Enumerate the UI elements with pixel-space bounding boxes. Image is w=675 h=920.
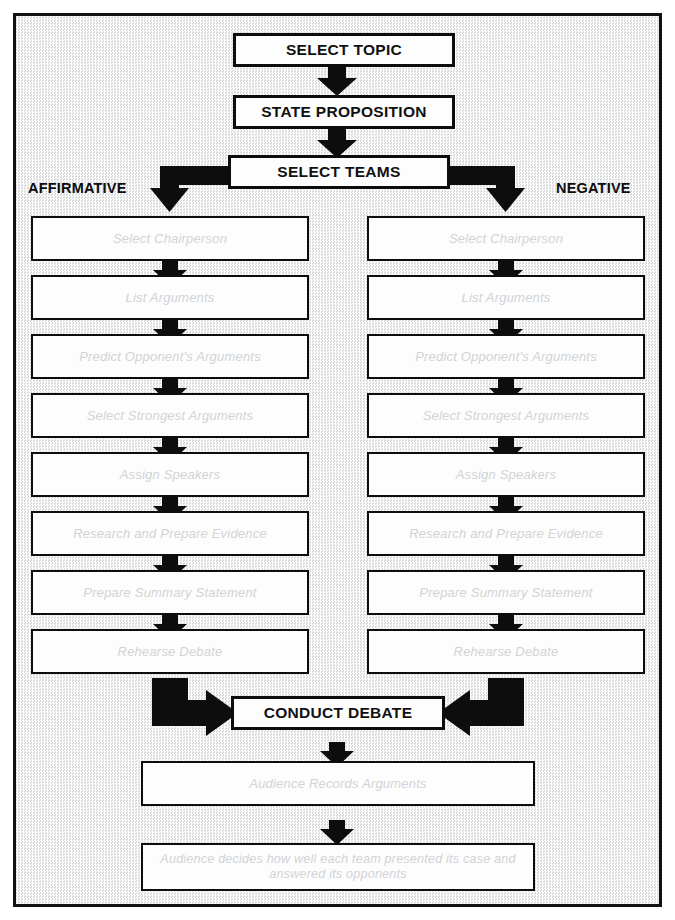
node-audience-decides[interactable]: Audience decides how well each team pres… (141, 843, 535, 891)
step-right-research-and-prepare-evidence[interactable]: Research and Prepare Evidence (367, 511, 645, 556)
step-left-select-strongest-arguments[interactable]: Select Strongest Arguments (31, 393, 309, 438)
step-right-predict-opponents-arguments[interactable]: Predict Opponent's Arguments (367, 334, 645, 379)
audience-decides-line2: answered its opponents (269, 867, 406, 881)
node-label: CONDUCT DEBATE (264, 704, 413, 723)
step-left-list-arguments[interactable]: List Arguments (31, 275, 309, 320)
node-select-topic[interactable]: SELECT TOPIC (233, 33, 455, 67)
affirmative-text: AFFIRMATIVE (28, 180, 127, 196)
step-label: Prepare Summary Statement (419, 585, 592, 601)
step-left-prepare-summary-statement[interactable]: Prepare Summary Statement (31, 570, 309, 615)
arrow-right-elbow-to-conduct (438, 678, 524, 736)
branch-label-negative: NEGATIVE (556, 180, 631, 196)
arrow-records-to-decides (320, 820, 354, 845)
flowchart-page: SELECT TOPIC STATE PROPOSITION SELECT TE… (0, 0, 675, 920)
step-label: Assign Speakers (120, 467, 221, 483)
step-right-select-strongest-arguments[interactable]: Select Strongest Arguments (367, 393, 645, 438)
arrow-topic-to-proposition (317, 66, 357, 96)
audience-decides-text: Audience decides how well each team pres… (157, 852, 519, 883)
step-left-research-and-prepare-evidence[interactable]: Research and Prepare Evidence (31, 511, 309, 556)
step-label: Predict Opponent's Arguments (415, 349, 597, 365)
step-label: Select Chairperson (113, 231, 227, 247)
step-label: List Arguments (125, 290, 214, 306)
step-label: List Arguments (461, 290, 550, 306)
branch-label-affirmative: AFFIRMATIVE (28, 180, 127, 196)
arrow-proposition-to-teams (317, 128, 357, 158)
step-label: Rehearse Debate (454, 644, 559, 660)
step-left-assign-speakers[interactable]: Assign Speakers (31, 452, 309, 497)
node-audience-records-arguments[interactable]: Audience Records Arguments (141, 761, 535, 806)
step-label: Research and Prepare Evidence (73, 526, 267, 542)
step-right-list-arguments[interactable]: List Arguments (367, 275, 645, 320)
audience-decides-line1: Audience decides how well each team pres… (160, 852, 515, 866)
step-label: Prepare Summary Statement (83, 585, 256, 601)
step-label: Predict Opponent's Arguments (79, 349, 261, 365)
step-right-assign-speakers[interactable]: Assign Speakers (367, 452, 645, 497)
step-right-rehearse-debate[interactable]: Rehearse Debate (367, 629, 645, 674)
step-label: Audience Records Arguments (249, 776, 426, 792)
node-label: SELECT TEAMS (277, 163, 400, 182)
step-left-select-chairperson[interactable]: Select Chairperson (31, 216, 309, 261)
node-label: STATE PROPOSITION (261, 103, 427, 122)
step-label: Select Strongest Arguments (423, 408, 590, 424)
node-select-teams[interactable]: SELECT TEAMS (228, 155, 450, 189)
step-left-predict-opponents-arguments[interactable]: Predict Opponent's Arguments (31, 334, 309, 379)
negative-text: NEGATIVE (556, 180, 631, 196)
step-label: Rehearse Debate (118, 644, 223, 660)
step-label: Select Strongest Arguments (87, 408, 254, 424)
step-left-rehearse-debate[interactable]: Rehearse Debate (31, 629, 309, 674)
step-right-prepare-summary-statement[interactable]: Prepare Summary Statement (367, 570, 645, 615)
node-label: SELECT TOPIC (286, 41, 402, 60)
node-state-proposition[interactable]: STATE PROPOSITION (233, 95, 455, 129)
node-conduct-debate[interactable]: CONDUCT DEBATE (231, 696, 445, 730)
step-label: Assign Speakers (456, 467, 557, 483)
step-label: Research and Prepare Evidence (409, 526, 603, 542)
step-label: Select Chairperson (449, 231, 563, 247)
step-right-select-chairperson[interactable]: Select Chairperson (367, 216, 645, 261)
arrow-left-elbow-to-conduct (152, 678, 238, 736)
